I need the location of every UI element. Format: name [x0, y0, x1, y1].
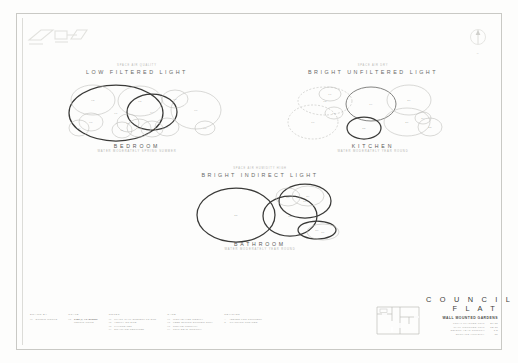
legend-column: SCALE021:50 @ A1 SHEETMETRIC UNITS: [68, 313, 97, 325]
schedule-row: SURFACE HUMIDITY86: [426, 333, 498, 337]
legend-key: [68, 321, 71, 324]
flat-floor-plan: [376, 301, 420, 335]
title-block-text: C O U N C I L F L A T WALL MOUNTED GARDE…: [426, 295, 498, 337]
north-arrow: N: [466, 27, 490, 53]
legend-column: CARE01MIST LEAVES WEEKLY02FEED SPRING SU…: [167, 313, 213, 332]
legend-key: 01: [30, 318, 33, 321]
drawing-sheet: N 01020304050607080910111213141516171819…: [0, 0, 518, 363]
project-title-line-2: F L A T: [426, 304, 498, 313]
project-title-line-1: C O U N C I L: [426, 295, 498, 304]
legend-row: 04DRAINAGE REQUIRED: [109, 328, 157, 331]
schedule-label: SURFACE HUMIDITY: [426, 333, 485, 337]
legend-column-heading: CARE: [167, 313, 213, 316]
legend-column: NOTES01PLANT WALL SUBJECT TO SUN02VERIFY…: [109, 313, 157, 332]
legend-key: 04: [167, 328, 170, 331]
legend-value: STUDIO WORKS: [36, 318, 58, 321]
legend-key: B: [224, 321, 227, 324]
schedule-value: 86: [485, 333, 498, 337]
north-label: N: [466, 52, 490, 55]
title-block: C O U N C I L F L A T WALL MOUNTED GARDE…: [376, 295, 498, 341]
legend-value: METRIC UNITS: [74, 321, 94, 324]
legend-column-heading: SCALE: [68, 313, 97, 316]
legend-column-heading: REVISION: [224, 313, 262, 316]
legend-row: 04TRIM DEAD GROWTH: [167, 328, 213, 331]
legend-row: 01STUDIO WORKS: [30, 318, 57, 321]
project-subtitle: WALL MOUNTED GARDENS: [426, 316, 498, 320]
legend-column-heading: NOTES: [109, 313, 157, 316]
sheet-legend: DRAWN BY01STUDIO WORKSSCALE021:50 @ A1 S…: [30, 313, 360, 332]
legend-value: DRAINAGE REQUIRED: [114, 328, 144, 331]
legend-row: BPLANTING UPDATED: [224, 321, 262, 324]
title-block-schedule: TOTAL PLANTED UNIT24.80WALL MOUNTED UNIT…: [426, 322, 498, 337]
legend-value: TRIM DEAD GROWTH: [173, 328, 202, 331]
legend-column-heading: DRAWN BY: [30, 313, 57, 316]
legend-column: DRAWN BY01STUDIO WORKS: [30, 313, 57, 321]
legend-key: 04: [109, 328, 112, 331]
legend-column: REVISIONAISSUED FOR COMMENTBPLANTING UPD…: [224, 313, 262, 325]
legend-value: PLANTING UPDATED: [230, 321, 258, 324]
studio-logo: [27, 27, 91, 47]
legend-row: METRIC UNITS: [68, 321, 97, 324]
